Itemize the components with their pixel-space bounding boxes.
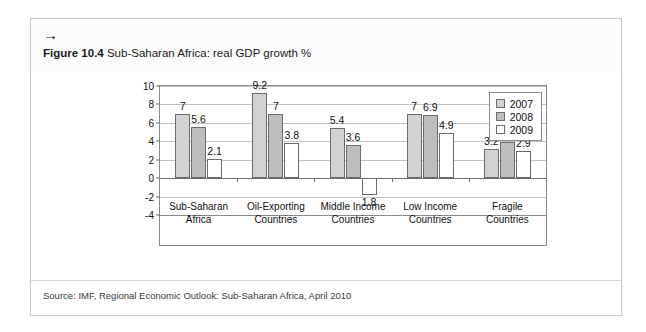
category-label: FragileCountries bbox=[486, 200, 529, 226]
bar bbox=[268, 114, 283, 179]
bar bbox=[423, 115, 438, 179]
category-label-line2: Countries bbox=[403, 213, 457, 226]
figure-caption: Figure 10.4 Sub-Saharan Africa: real GDP… bbox=[43, 47, 311, 59]
bar bbox=[252, 93, 267, 178]
figure-header: → Figure 10.4 Sub-Saharan Africa: real G… bbox=[31, 19, 621, 71]
figure-number: Figure 10.4 bbox=[43, 47, 104, 59]
bar-value-label: 7 bbox=[411, 100, 417, 112]
legend-label: 2008 bbox=[510, 111, 533, 123]
bar bbox=[284, 143, 299, 178]
bar bbox=[439, 133, 454, 178]
y-tick-label: 8 bbox=[148, 99, 154, 110]
legend-item: 2009 bbox=[496, 123, 533, 136]
bar-value-label: 7 bbox=[273, 100, 279, 112]
category-label: Middle IncomeCountries bbox=[320, 200, 385, 226]
chart-legend: 200720082009 bbox=[489, 92, 542, 141]
legend-label: 2007 bbox=[510, 98, 533, 110]
bar-value-label: 9.2 bbox=[252, 79, 267, 91]
y-tick-label: 6 bbox=[148, 117, 154, 128]
bar bbox=[407, 114, 422, 179]
category-label-line2: Countries bbox=[247, 213, 305, 226]
page-background: → Figure 10.4 Sub-Saharan Africa: real G… bbox=[0, 0, 646, 332]
bar-value-label: 4.9 bbox=[439, 119, 454, 131]
y-tick-label: 4 bbox=[148, 136, 154, 147]
source-note: Source: IMF, Regional Economic Outlook: … bbox=[43, 290, 351, 301]
category-label-line1: Low Income bbox=[403, 200, 457, 213]
bar-value-label: 5.6 bbox=[191, 113, 206, 125]
bar bbox=[191, 127, 206, 179]
bar bbox=[500, 142, 515, 178]
bar-value-label: 3.6 bbox=[346, 131, 361, 143]
legend-label: 2009 bbox=[510, 124, 533, 136]
bar bbox=[484, 149, 499, 178]
legend-swatch-icon bbox=[496, 112, 505, 121]
category-label-line1: Middle Income bbox=[320, 200, 385, 213]
y-tick-label: -4 bbox=[145, 210, 154, 221]
figure-title: Sub-Saharan Africa: real GDP growth % bbox=[107, 47, 311, 59]
bar bbox=[175, 114, 190, 179]
bar-value-label: 7 bbox=[180, 100, 186, 112]
category-label-line1: Oil-Exporting bbox=[247, 200, 305, 213]
bar-value-label: 6.9 bbox=[423, 101, 438, 113]
bar-value-label: 5.4 bbox=[330, 114, 345, 126]
category-label: Oil-ExportingCountries bbox=[247, 200, 305, 226]
plot-area: -4-20246810 75.62.19.273.85.43.61.876.94… bbox=[159, 85, 547, 246]
x-tick-mark bbox=[392, 178, 393, 182]
x-tick-mark bbox=[469, 178, 470, 182]
legend-item: 2007 bbox=[496, 97, 533, 110]
legend-swatch-icon bbox=[496, 125, 505, 134]
y-tick-label: 0 bbox=[148, 173, 154, 184]
category-label: Sub-SaharanAfrica bbox=[169, 200, 228, 226]
category-label-line2: Africa bbox=[169, 213, 228, 226]
bar bbox=[330, 128, 345, 178]
category-label-line2: Countries bbox=[486, 213, 529, 226]
y-tick-label: 10 bbox=[143, 81, 154, 92]
bar bbox=[516, 151, 531, 178]
x-tick-mark bbox=[237, 178, 238, 182]
y-tick-label: 2 bbox=[148, 154, 154, 165]
bar bbox=[362, 178, 377, 195]
category-label: Low IncomeCountries bbox=[403, 200, 457, 226]
bar bbox=[207, 159, 222, 178]
legend-item: 2008 bbox=[496, 110, 533, 123]
source-divider bbox=[31, 280, 621, 281]
arrow-right-icon: → bbox=[43, 27, 58, 42]
legend-swatch-icon bbox=[496, 99, 505, 108]
category-label-line2: Countries bbox=[320, 213, 385, 226]
bar-value-label: 3.8 bbox=[284, 129, 299, 141]
figure-container: → Figure 10.4 Sub-Saharan Africa: real G… bbox=[30, 18, 622, 316]
category-label-line1: Sub-Saharan bbox=[169, 200, 228, 213]
y-tick-label: -2 bbox=[145, 191, 154, 202]
bar-value-label: 2.1 bbox=[207, 145, 222, 157]
category-label-line1: Fragile bbox=[486, 200, 529, 213]
x-tick-mark bbox=[314, 178, 315, 182]
bar-chart: -4-20246810 75.62.19.273.85.43.61.876.94… bbox=[131, 85, 551, 282]
bar bbox=[346, 145, 361, 178]
